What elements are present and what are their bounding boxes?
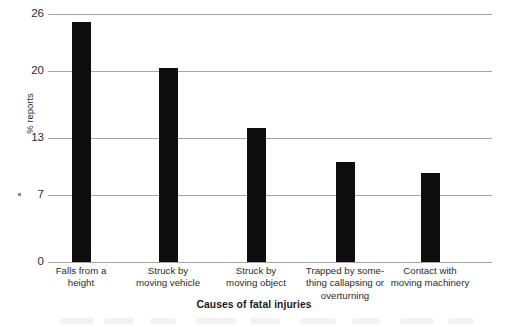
- y-tick-label-26: 26: [4, 8, 44, 20]
- cat-label-line: moving vehicle: [136, 277, 200, 288]
- y-tick-label-20: 20: [4, 65, 44, 77]
- gridline-20: [48, 71, 492, 72]
- cat-label-line: thing callapsing or: [306, 277, 384, 288]
- cat-label-line: moving object: [226, 277, 286, 288]
- scan-artifact: [400, 318, 434, 324]
- category-label-5: Contact withmoving machinery: [378, 265, 482, 290]
- x-axis-title: Causes of fatal injuries: [0, 299, 508, 310]
- category-label-1: Falls from aheight: [38, 265, 124, 290]
- category-label-2: Struck bymoving vehicle: [122, 265, 214, 290]
- y-tick-label-7: 7: [4, 189, 44, 201]
- scan-artifact: [448, 318, 474, 324]
- cat-label-line: Struck by: [236, 265, 276, 276]
- scan-artifact: [60, 318, 94, 324]
- gridline-13: [48, 138, 492, 139]
- cat-label-line: Struck by: [148, 265, 188, 276]
- bar-2: [159, 68, 178, 262]
- plot-area: [48, 14, 492, 262]
- bar-5: [421, 173, 440, 262]
- bar-chart: % reports 07132026 Falls from aheightStr…: [0, 0, 508, 327]
- cat-label-line: moving machinery: [391, 277, 470, 288]
- bar-3: [247, 128, 266, 262]
- cat-label-line: Trapped by some-: [306, 265, 384, 276]
- scan-artifact: [196, 318, 236, 324]
- scan-artifact: [150, 318, 176, 324]
- scan-artifact: [250, 318, 280, 324]
- cat-label-line: Contact with: [403, 265, 456, 276]
- cat-label-line: height: [68, 277, 94, 288]
- gridline-0: [48, 262, 492, 263]
- gridline-26: [48, 14, 492, 15]
- bar-4: [336, 162, 355, 262]
- bar-1: [72, 22, 91, 262]
- y-tick-label-13: 13: [4, 132, 44, 144]
- category-label-3: Struck bymoving object: [211, 265, 301, 290]
- scan-artifact: [300, 318, 336, 324]
- cat-label-line: Falls from a: [56, 265, 107, 276]
- y-axis-tick-labels: 07132026: [0, 14, 44, 262]
- scan-artifact: [352, 318, 380, 324]
- scan-artifact: [104, 318, 134, 324]
